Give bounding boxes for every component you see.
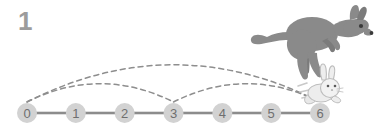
kangaroo-hind-leg [297,52,308,80]
kangaroo-icon [251,5,374,80]
rabbit-ear-left [320,64,326,80]
rabbit-eye-right [334,85,337,88]
kangaroo-eye [359,24,363,28]
jump-arcs-group [27,65,320,102]
rabbit-front-paw [331,96,341,103]
rabbit-jump-0-to-3 [27,84,174,102]
number-line-label-0: 0 [23,107,30,120]
number-line-label-2: 2 [121,107,128,120]
number-line-label-3: 3 [170,107,177,120]
kangaroo-jump-0-to-6 [27,65,320,102]
number-line-label-1: 1 [72,107,79,120]
worksheet-figure: 1 [0,0,383,134]
rabbit-eye-left [327,85,330,88]
number-line-label-4: 4 [219,107,226,120]
number-line-label-5: 5 [268,107,275,120]
number-line-diagram [0,0,383,134]
kangaroo-nose [370,31,374,35]
rabbit-head [321,79,340,98]
number-line-label-6: 6 [316,107,323,120]
